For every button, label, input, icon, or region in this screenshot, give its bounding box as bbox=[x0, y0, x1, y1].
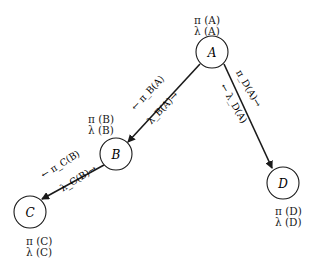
node-d-label: D bbox=[277, 177, 288, 191]
node-a: A bbox=[196, 36, 228, 68]
node-d: D bbox=[267, 167, 299, 199]
node-c: C bbox=[14, 196, 46, 228]
node-a-label: A bbox=[207, 46, 217, 60]
node-a-lambda: λ (A) bbox=[194, 25, 220, 37]
node-d-lambda: λ (D) bbox=[275, 216, 302, 228]
node-b: B bbox=[100, 138, 132, 170]
node-c-label: C bbox=[25, 206, 34, 220]
bayes-tree-diagram: A B C D ← π_B(A) λ_B(A)→ π_D(A)→ ← λ_D(A… bbox=[0, 0, 313, 263]
node-b-label: B bbox=[111, 148, 121, 162]
node-b-lambda: λ (B) bbox=[88, 124, 114, 136]
node-c-lambda: λ (C) bbox=[26, 246, 52, 258]
